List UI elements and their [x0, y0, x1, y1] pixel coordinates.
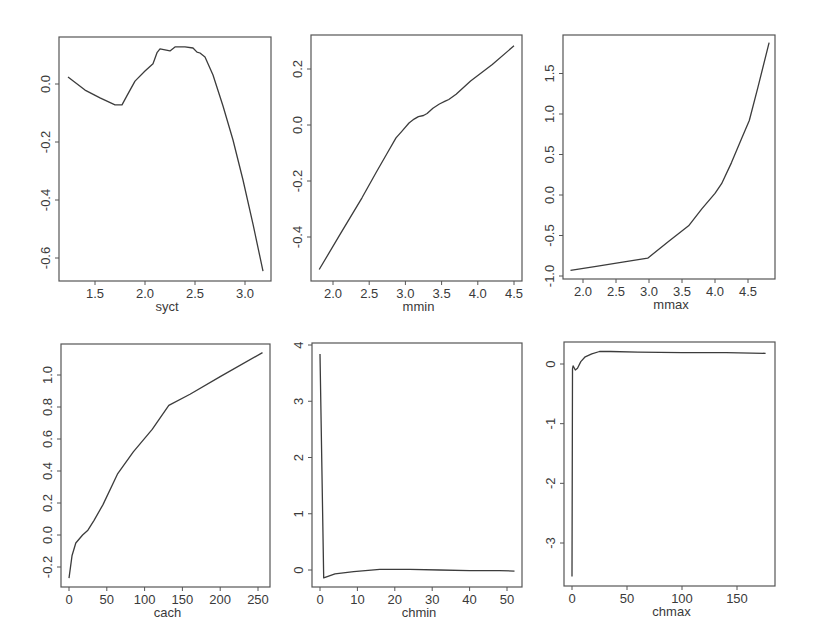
panel-chmax: chmax 0501001500-1-2-3	[543, 342, 775, 619]
x-tick-label: 40	[462, 592, 476, 607]
data-line	[571, 43, 770, 271]
panel-chmin: chmin 0102030405001234	[291, 341, 522, 620]
y-tick-label: 0.4	[40, 462, 55, 480]
y-tick-label: 0	[543, 360, 558, 367]
y-tick-label: 0.5	[542, 145, 557, 163]
x-tick-label: 3.0	[236, 286, 254, 301]
y-tick-label: 2	[291, 454, 306, 461]
y-tick-label: 0.0	[38, 75, 53, 93]
y-tick-label: -0.4	[290, 226, 305, 248]
data-line	[320, 354, 515, 578]
y-tick-label: 0.8	[40, 398, 55, 416]
x-tick-label: 250	[247, 592, 269, 607]
y-tick-label: -0.5	[542, 224, 557, 246]
y-tick-label: 0.0	[290, 116, 305, 134]
panel-mmin: mmin 2.02.53.03.54.04.50.20.0-0.2-0.4	[290, 35, 523, 314]
x-tick-label: 0	[316, 592, 323, 607]
y-tick-label: 0.2	[40, 494, 55, 512]
plot-frame	[59, 37, 271, 281]
x-tick-label: 1.5	[86, 286, 104, 301]
x-tick-label: 2.0	[574, 284, 592, 299]
y-tick-label: 0.0	[542, 186, 557, 204]
x-tick-label: 2.0	[136, 286, 154, 301]
x-tick-label: 2.0	[324, 286, 342, 301]
data-line	[572, 352, 766, 577]
y-tick-label: 1.5	[542, 64, 557, 82]
x-tick-label: 30	[425, 592, 439, 607]
y-tick-label: 0.6	[40, 430, 55, 448]
x-tick-label: 150	[172, 592, 194, 607]
plot-frame	[311, 35, 522, 281]
y-tick-label: 1.0	[542, 105, 557, 123]
x-tick-label: 4.5	[505, 286, 523, 301]
x-tick-label: 50	[100, 592, 114, 607]
x-axis-label: chmax	[652, 604, 691, 619]
x-axis-label: cach	[154, 605, 181, 620]
figure-canvas: syct 1.52.02.53.00.0-0.2-0.4-0.6 mmin 2.…	[0, 0, 813, 644]
panel-cach: cach 050100150200250-0.20.00.20.40.60.81…	[40, 344, 270, 620]
y-tick-label: 0.2	[290, 60, 305, 78]
x-tick-label: 3.5	[673, 284, 691, 299]
x-tick-label: 10	[350, 592, 364, 607]
x-axis-label: mmax	[653, 297, 689, 312]
x-tick-label: 3.0	[396, 286, 414, 301]
x-tick-label: 50	[620, 591, 634, 606]
y-tick-label: 4	[291, 341, 306, 348]
x-axis-label: chmin	[402, 605, 437, 620]
y-tick-label: -3	[543, 537, 558, 549]
y-tick-label: -0.4	[38, 189, 53, 211]
y-tick-label: -0.2	[40, 556, 55, 578]
panel-syct: syct 1.52.02.53.00.0-0.2-0.4-0.6	[38, 37, 271, 314]
y-tick-label: 1.0	[40, 366, 55, 384]
plot-frame	[312, 343, 522, 587]
y-tick-label: -1	[543, 418, 558, 430]
data-line	[68, 47, 263, 271]
x-tick-label: 150	[726, 591, 748, 606]
y-tick-label: -1.0	[542, 265, 557, 287]
y-tick-label: 3	[291, 398, 306, 405]
x-tick-label: 3.0	[640, 284, 658, 299]
x-tick-label: 4.0	[706, 284, 724, 299]
x-tick-label: 200	[209, 592, 231, 607]
data-line	[69, 353, 263, 579]
x-tick-label: 2.5	[186, 286, 204, 301]
plot-frame	[61, 344, 270, 587]
x-tick-label: 0	[568, 591, 575, 606]
x-axis-label: mmin	[403, 299, 435, 314]
x-tick-label: 3.5	[433, 286, 451, 301]
y-tick-label: -0.6	[38, 247, 53, 269]
x-axis-label: syct	[155, 299, 179, 314]
x-tick-label: 4.0	[469, 286, 487, 301]
y-tick-label: -2	[543, 478, 558, 490]
x-tick-label: 100	[134, 592, 156, 607]
data-line	[319, 46, 514, 270]
x-tick-label: 4.5	[739, 284, 757, 299]
plot-frame	[564, 342, 775, 586]
plot-frame	[563, 35, 775, 279]
x-tick-label: 50	[500, 592, 514, 607]
y-tick-label: 1	[291, 510, 306, 517]
y-tick-label: 0	[291, 566, 306, 573]
panel-mmax: mmax 2.02.53.03.54.04.5-1.0-0.50.00.51.0…	[542, 35, 775, 312]
x-tick-label: 2.5	[607, 284, 625, 299]
y-tick-label: 0.0	[40, 526, 55, 544]
y-tick-label: -0.2	[290, 170, 305, 192]
x-tick-label: 2.5	[360, 286, 378, 301]
x-tick-label: 100	[671, 591, 693, 606]
y-tick-label: -0.2	[38, 131, 53, 153]
x-tick-label: 0	[65, 592, 72, 607]
x-tick-label: 20	[388, 592, 402, 607]
